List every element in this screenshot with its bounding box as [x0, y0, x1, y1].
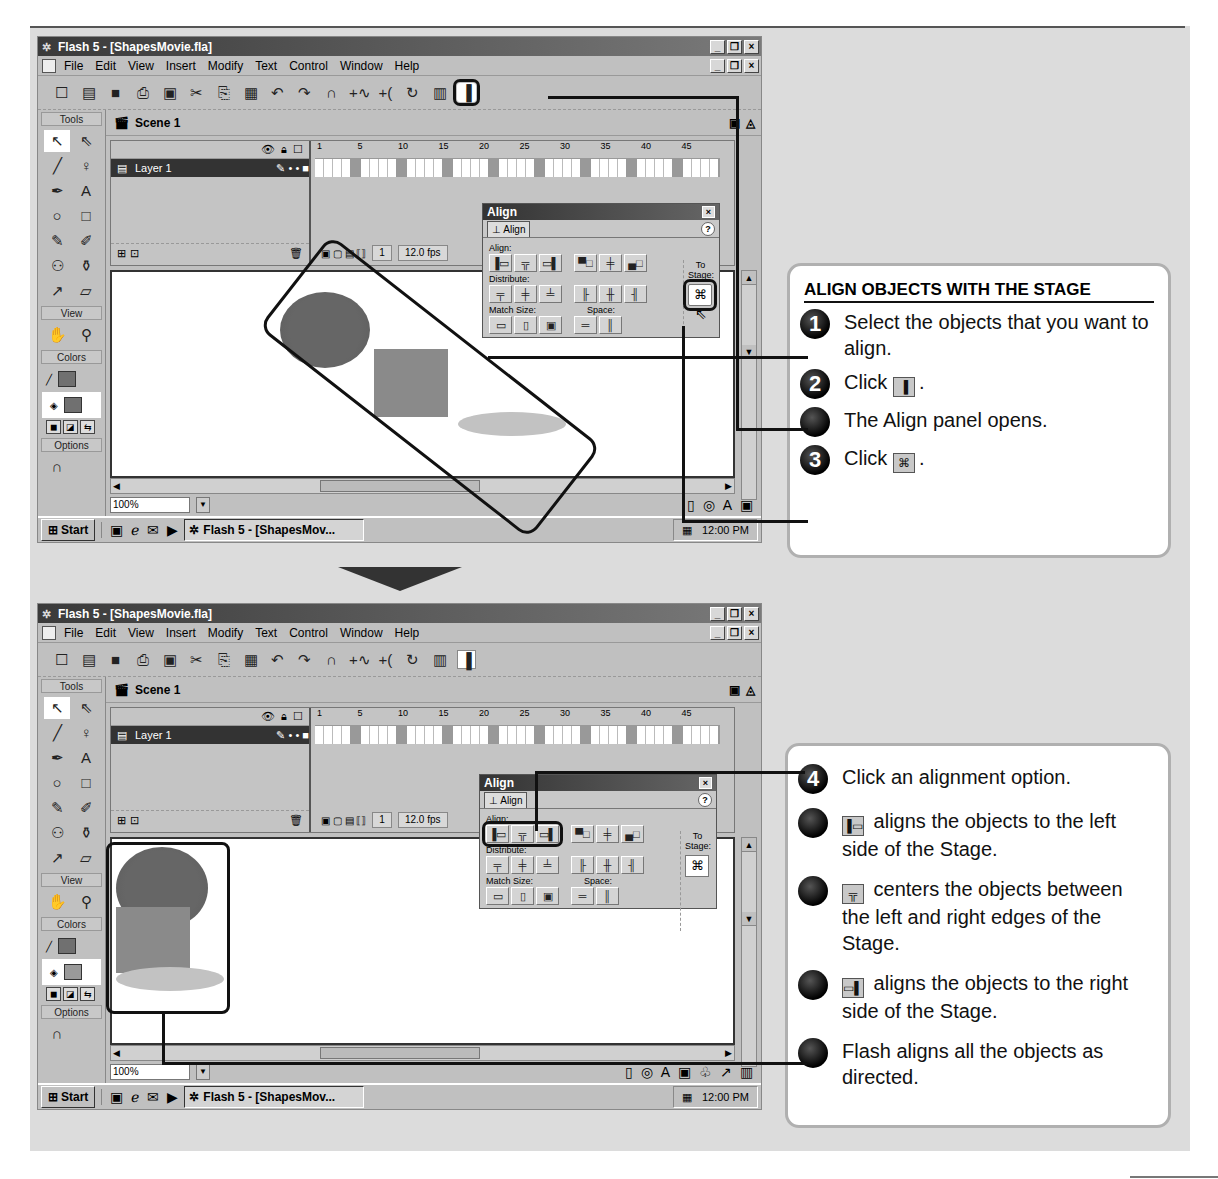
- match-height-button[interactable]: ▯: [514, 316, 537, 334]
- lasso-tool-icon[interactable]: ♀: [73, 155, 99, 177]
- menu-view[interactable]: View: [128, 59, 154, 73]
- tab-align[interactable]: ⊥ Align: [487, 221, 530, 237]
- menu-control[interactable]: Control: [289, 59, 328, 73]
- pen-tool-icon[interactable]: ✒: [44, 180, 70, 202]
- edit-symbol-icon[interactable]: ◬: [746, 683, 755, 697]
- match-both-button[interactable]: ▣: [536, 887, 559, 905]
- add-layer-icon[interactable]: ⊞: [117, 247, 126, 260]
- match-width-button[interactable]: ▭: [486, 887, 509, 905]
- eraser-tool-icon[interactable]: ▱: [73, 847, 99, 869]
- frame-ruler[interactable]: 151015202530354045: [315, 141, 720, 159]
- scene-panel-icon[interactable]: ♧: [699, 1064, 712, 1080]
- to-stage-button[interactable]: ⌘: [688, 284, 712, 306]
- rotate-icon[interactable]: ↻: [403, 83, 422, 102]
- doc-minimize-button[interactable]: _: [710, 59, 725, 73]
- ie-icon[interactable]: ℯ: [131, 522, 139, 538]
- arrow-tool-icon[interactable]: ↖: [44, 697, 70, 719]
- menu-window[interactable]: Window: [340, 626, 383, 640]
- distribute-right-button[interactable]: ╢: [621, 856, 644, 874]
- tab-align[interactable]: ⊥ Align: [484, 792, 527, 808]
- fill-color-swatch[interactable]: [64, 964, 82, 980]
- zoom-dropdown-icon[interactable]: ▼: [196, 1064, 210, 1080]
- onion-skin-icons[interactable]: ▣ ▢ ▤ ⟦⟧: [321, 815, 366, 826]
- distribute-center-h-button[interactable]: ╫: [599, 285, 622, 303]
- lock-icon[interactable]: 🔒︎: [281, 710, 287, 723]
- print-icon[interactable]: ⎙: [133, 650, 152, 669]
- align-top-button[interactable]: ▀□: [571, 825, 594, 843]
- paint-bucket-tool-icon[interactable]: ⚱: [73, 255, 99, 277]
- zoom-tool-icon[interactable]: ⚲: [73, 891, 99, 913]
- menu-edit[interactable]: Edit: [95, 59, 116, 73]
- menu-text[interactable]: Text: [255, 626, 277, 640]
- tray-icon[interactable]: ▦: [682, 524, 692, 537]
- doc-close-button[interactable]: ×: [744, 626, 759, 640]
- open-icon[interactable]: ▤: [79, 650, 98, 669]
- character-panel-icon[interactable]: A: [723, 497, 732, 513]
- panel-close-button[interactable]: ×: [699, 777, 712, 789]
- doc-restore-button[interactable]: ❐: [727, 59, 742, 73]
- mixer-panel-icon[interactable]: ◎: [703, 497, 715, 513]
- align-bottom-button[interactable]: ▄□: [624, 254, 647, 272]
- zoom-level-field[interactable]: 100%: [110, 1064, 190, 1080]
- snap-icon[interactable]: ∩: [322, 650, 341, 669]
- info-panel-icon[interactable]: ▯: [687, 497, 695, 513]
- align-center-h-button[interactable]: ╦: [511, 825, 534, 843]
- zoom-level-field[interactable]: 100%: [110, 497, 190, 513]
- distribute-right-button[interactable]: ╢: [624, 285, 647, 303]
- start-button[interactable]: ⊞Start: [41, 1086, 95, 1108]
- save-icon[interactable]: ■: [106, 83, 125, 102]
- menu-help[interactable]: Help: [395, 626, 420, 640]
- no-color-icon[interactable]: ◪: [63, 987, 78, 1001]
- copy-icon[interactable]: ⎘: [214, 83, 233, 102]
- align-bottom-button[interactable]: ▄□: [621, 825, 644, 843]
- dropper-tool-icon[interactable]: ↗: [44, 280, 70, 302]
- new-icon[interactable]: ☐: [52, 650, 71, 669]
- match-both-button[interactable]: ▣: [539, 316, 562, 334]
- paste-icon[interactable]: ▦: [241, 650, 260, 669]
- cut-icon[interactable]: ✂: [187, 650, 206, 669]
- character-panel-icon[interactable]: A: [661, 1064, 670, 1080]
- align-center-v-button[interactable]: ╪: [599, 254, 622, 272]
- edit-symbol-icon[interactable]: ◬: [746, 116, 755, 130]
- paint-bucket-tool-icon[interactable]: ⚱: [73, 822, 99, 844]
- media-icon[interactable]: ▶: [167, 1089, 178, 1105]
- menu-edit[interactable]: Edit: [95, 626, 116, 640]
- taskbar-flash-button[interactable]: ✲Flash 5 - [ShapesMov...: [184, 1086, 364, 1108]
- swap-colors-icon[interactable]: ⇆: [80, 987, 95, 1001]
- help-button[interactable]: ?: [698, 793, 712, 807]
- menu-modify[interactable]: Modify: [208, 626, 243, 640]
- rectangle-tool-icon[interactable]: □: [73, 772, 99, 794]
- stroke-color-swatch[interactable]: [58, 938, 76, 954]
- maximize-button[interactable]: ❐: [727, 607, 742, 621]
- instance-panel-icon[interactable]: ▣: [678, 1064, 691, 1080]
- undo-icon[interactable]: ↶: [268, 83, 287, 102]
- rectangle-tool-icon[interactable]: □: [73, 205, 99, 227]
- maximize-button[interactable]: ❐: [727, 40, 742, 54]
- subselect-tool-icon[interactable]: ⇖: [73, 130, 99, 152]
- frames-row[interactable]: [315, 159, 720, 177]
- print-preview-icon[interactable]: ▣: [160, 83, 179, 102]
- hand-tool-icon[interactable]: ✋: [44, 324, 70, 346]
- minimize-button[interactable]: _: [710, 40, 725, 54]
- help-button[interactable]: ?: [701, 222, 715, 236]
- delete-layer-icon[interactable]: 🗑︎: [289, 814, 303, 827]
- start-button[interactable]: ⊞Start: [41, 519, 95, 541]
- save-icon[interactable]: ■: [106, 650, 125, 669]
- frames-row[interactable]: [315, 726, 720, 744]
- align-icon[interactable]: ▐: [457, 650, 476, 669]
- straighten-icon[interactable]: +(: [376, 83, 395, 102]
- align-left-button[interactable]: ▐▭: [489, 254, 512, 272]
- align-icon[interactable]: ▐: [457, 83, 476, 102]
- smooth-icon[interactable]: +∿: [349, 83, 368, 102]
- redo-icon[interactable]: ↷: [295, 83, 314, 102]
- close-button[interactable]: ×: [744, 40, 759, 54]
- redo-icon[interactable]: ↷: [295, 650, 314, 669]
- pencil-tool-icon[interactable]: ✎: [44, 797, 70, 819]
- distribute-top-button[interactable]: ╤: [489, 285, 512, 303]
- show-hide-icon[interactable]: 👁︎: [261, 710, 275, 723]
- pencil-tool-icon[interactable]: ✎: [44, 230, 70, 252]
- align-right-button[interactable]: ▭▌: [536, 825, 559, 843]
- outline-icon[interactable]: ☐: [293, 710, 303, 723]
- actions-panel-icon[interactable]: ↗: [720, 1064, 732, 1080]
- print-preview-icon[interactable]: ▣: [160, 650, 179, 669]
